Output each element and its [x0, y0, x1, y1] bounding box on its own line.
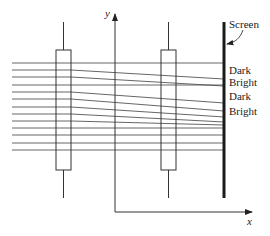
second-barrier [161, 22, 176, 198]
screen-label: Screen [229, 19, 259, 30]
fringe-label-bright-1: Bright [229, 77, 257, 88]
screen-pointer-arrow [227, 30, 243, 44]
light-rays [12, 63, 224, 150]
x-axis-label: x [247, 216, 252, 227]
light-ray [12, 121, 224, 125]
diagram-canvas [0, 0, 270, 236]
fringe-label-bright-2: Bright [229, 106, 257, 117]
y-axis-label: y [105, 8, 110, 19]
light-ray [12, 70, 224, 79]
first-barrier [56, 22, 71, 198]
fringe-label-dark-2: Dark [229, 91, 251, 102]
fringe-label-dark-1: Dark [229, 65, 251, 76]
light-ray [12, 92, 224, 103]
second-barrier-box [161, 50, 176, 170]
first-barrier-box [56, 50, 71, 170]
